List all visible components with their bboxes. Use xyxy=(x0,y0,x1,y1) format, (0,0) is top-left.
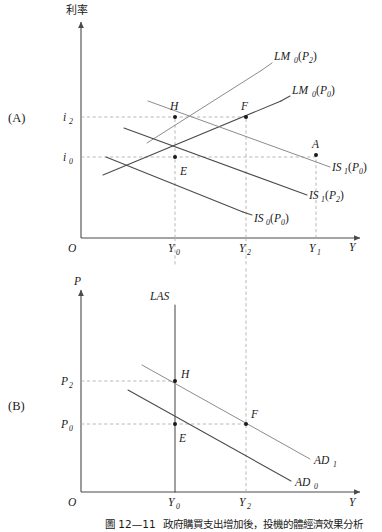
svg-text:): ) xyxy=(363,161,367,174)
economics-figure: (A) 利率 Y O xyxy=(0,0,382,532)
svg-text:P: P xyxy=(60,375,68,387)
point-h-b xyxy=(173,379,177,383)
xtick-y0-a: Y 0 xyxy=(168,242,180,257)
svg-text:AD: AD xyxy=(294,476,311,488)
svg-text:Y: Y xyxy=(168,496,176,508)
point-e-b xyxy=(173,422,177,426)
panel-a-origin-label: O xyxy=(68,242,77,254)
svg-text:Y: Y xyxy=(239,496,247,508)
svg-text:): ) xyxy=(285,212,289,225)
svg-text:IS: IS xyxy=(253,212,264,224)
ytick-p0: P 0 xyxy=(60,418,73,433)
point-f-b xyxy=(244,422,248,426)
svg-text:LM: LM xyxy=(291,84,309,96)
curve-label-lm0-p0: LM 0 ( P 0 ) xyxy=(291,84,335,99)
point-label-a-a: A xyxy=(311,138,320,150)
point-label-f-a: F xyxy=(240,100,249,112)
svg-text:2: 2 xyxy=(69,381,73,390)
point-e-a xyxy=(173,155,177,159)
svg-text:P: P xyxy=(273,212,281,224)
panel-b-origin-label: O xyxy=(68,496,77,508)
ad-as-panel: (B) P Y O LAS H xyxy=(8,266,360,511)
point-f-a xyxy=(244,115,248,119)
point-a-a xyxy=(314,153,318,157)
svg-text:i: i xyxy=(63,111,66,123)
ytick-p2: P 2 xyxy=(60,375,73,390)
svg-text:P: P xyxy=(319,84,327,96)
figure-caption-text: 政府購買支出增加後，投機的體經濟效果分析 xyxy=(163,518,364,530)
svg-text:IS: IS xyxy=(331,161,342,173)
svg-text:0: 0 xyxy=(176,502,180,511)
point-label-h-a: H xyxy=(169,100,179,112)
svg-text:): ) xyxy=(331,84,335,97)
svg-text:2: 2 xyxy=(247,248,251,257)
ytick-i0: i 0 xyxy=(63,151,73,166)
leader-lm0-p2 xyxy=(262,63,272,70)
xtick-y1-a: Y 1 xyxy=(309,242,321,257)
panel-b-tag: (B) xyxy=(8,399,25,413)
xtick-y2-a: Y 2 xyxy=(239,242,251,257)
curve-label-lm0-p2: LM 0 ( P 2 ) xyxy=(273,50,317,65)
curve-ad0 xyxy=(128,390,291,481)
panel-a-y-axis-label: 利率 xyxy=(66,3,88,17)
svg-text:LM: LM xyxy=(273,50,291,62)
svg-text:1: 1 xyxy=(333,460,337,469)
curve-is0-p0 xyxy=(106,157,243,212)
svg-text:Y: Y xyxy=(309,242,317,254)
panel-b-x-axis-label: Y xyxy=(349,496,357,508)
leader-lm0-p0 xyxy=(281,96,290,101)
svg-text:1: 1 xyxy=(317,248,321,257)
svg-text:P: P xyxy=(351,161,359,173)
svg-text:i: i xyxy=(63,151,66,163)
curve-label-is0-p0: IS 0 ( P 0 ) xyxy=(253,212,289,227)
xtick-y0-b: Y 0 xyxy=(168,496,180,511)
curve-label-is1-p0: IS 1 ( P 0 ) xyxy=(331,161,367,176)
svg-text:IS: IS xyxy=(308,189,319,201)
svg-text:): ) xyxy=(340,189,344,202)
svg-text:0: 0 xyxy=(314,482,318,491)
svg-text:0: 0 xyxy=(176,248,180,257)
svg-text:P: P xyxy=(60,418,68,430)
svg-text:2: 2 xyxy=(69,117,73,126)
is-lm-panel: (A) 利率 Y O xyxy=(8,3,367,266)
svg-text:0: 0 xyxy=(69,157,73,166)
point-label-e-a: E xyxy=(179,165,187,177)
svg-text:2: 2 xyxy=(247,502,251,511)
ytick-i2: i 2 xyxy=(63,111,73,126)
curve-lm0-p0 xyxy=(103,101,281,175)
curve-label-is1-p2: IS 1 ( P 2 ) xyxy=(308,189,344,204)
svg-text:0: 0 xyxy=(69,424,73,433)
point-label-h-b: H xyxy=(180,368,190,380)
svg-text:P: P xyxy=(328,189,336,201)
svg-text:P: P xyxy=(301,50,309,62)
point-label-e-b: E xyxy=(178,432,186,444)
panel-a-x-axis-label: Y xyxy=(349,241,357,253)
panel-a-tag: (A) xyxy=(8,111,25,125)
leader-is0-p0 xyxy=(243,212,252,215)
figure-root: (A) 利率 Y O xyxy=(0,0,382,532)
figure-caption: 圖 12—11 政府購買支出增加後，投機的體經濟效果分析 xyxy=(105,518,364,530)
curve-label-las: LAS xyxy=(149,290,169,302)
point-label-f-b: F xyxy=(250,408,259,420)
point-h-a xyxy=(173,115,177,119)
svg-text:): ) xyxy=(313,50,317,63)
curve-label-ad1: AD 1 xyxy=(313,454,337,469)
figure-caption-prefix: 圖 12—11 xyxy=(105,518,156,530)
svg-text:AD: AD xyxy=(313,454,330,466)
curve-label-ad0: AD 0 xyxy=(294,476,318,491)
xtick-y2-b: Y 2 xyxy=(239,496,251,511)
panel-b-y-axis-label: P xyxy=(73,275,81,287)
curve-is1-p2 xyxy=(124,128,307,195)
